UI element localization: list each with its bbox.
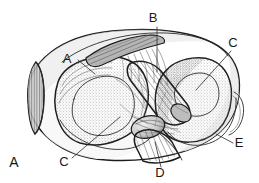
callout-d-label: D: [155, 165, 164, 180]
callout-a-label: A: [63, 51, 72, 66]
callout-c-lateral-label: C: [228, 35, 237, 50]
callout-b-label: B: [149, 10, 158, 25]
anatomy-illustration: A B C C D E A: [0, 0, 259, 183]
callout-c-medial-label: C: [59, 154, 68, 169]
anatomy-figure-panel: A B C C D E A: [0, 0, 259, 183]
panel-label: A: [9, 154, 19, 170]
callout-e-label: E: [235, 135, 244, 150]
